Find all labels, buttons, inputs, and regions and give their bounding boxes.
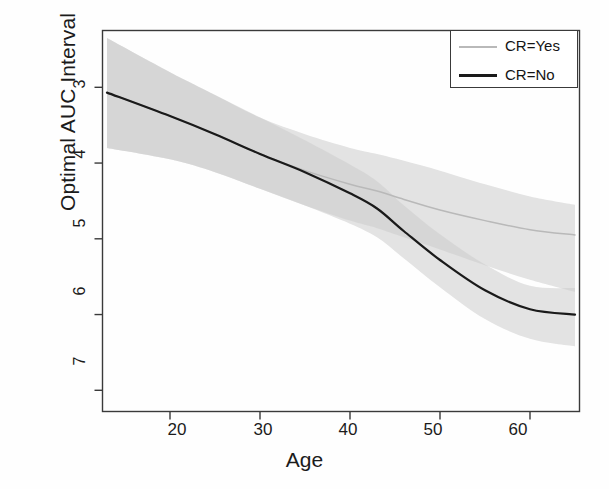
- legend-label-cr-yes: CR=Yes: [505, 37, 560, 54]
- legend-line-icon-cr-no: [459, 74, 497, 77]
- legend[interactable]: CR=Yes CR=No: [450, 30, 578, 88]
- legend-label-cr-no: CR=No: [505, 66, 555, 83]
- legend-line-icon-cr-yes: [459, 46, 497, 48]
- legend-item-cr-yes[interactable]: CR=Yes: [451, 35, 577, 60]
- legend-item-cr-no[interactable]: CR=No: [451, 64, 577, 89]
- chart-figure: Optimal AUC Interval Age 7 6 5 4 3 20 30…: [0, 0, 609, 489]
